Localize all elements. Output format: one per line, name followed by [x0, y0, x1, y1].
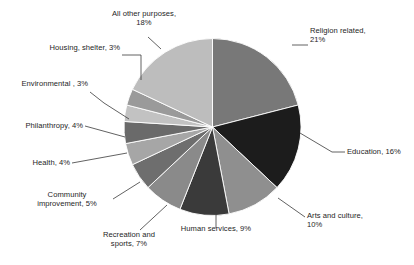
pie-slices-group [124, 38, 301, 215]
leader-line-health [72, 153, 127, 163]
leader-line-philanthropy [85, 126, 125, 137]
slice-label-all-other-purposes: All other purposes, 18% [92, 9, 196, 28]
slice-label-religion-related: Religion related, 21% [310, 26, 410, 45]
slice-label-arts-and-culture: Arts and culture, 10% [307, 211, 407, 230]
leader-line-arts [278, 198, 305, 217]
leader-line-housing [122, 55, 141, 80]
slice-label-environmental: Environmental , 3% [4, 79, 88, 88]
leader-line-allother [148, 37, 161, 49]
leader-line-environmental [90, 92, 129, 119]
leader-line-education [300, 133, 345, 152]
slice-label-community-improvement: Community improvement, 5% [19, 190, 115, 209]
slice-label-recreation-and-sports: Recreation and sports, 7% [84, 230, 174, 249]
leader-line-community [113, 182, 140, 199]
slice-label-housing-shelter: Housing, shelter, 3% [22, 43, 120, 52]
slice-label-education: Education, 16% [347, 147, 413, 156]
pie-chart-figure: Religion related, 21% Education, 16% Art… [0, 0, 414, 265]
slice-label-philanthropy: Philanthropy, 4% [4, 121, 83, 130]
slice-label-health: Health, 4% [6, 158, 70, 167]
slice-label-human-services: Human services, 9% [161, 224, 271, 233]
